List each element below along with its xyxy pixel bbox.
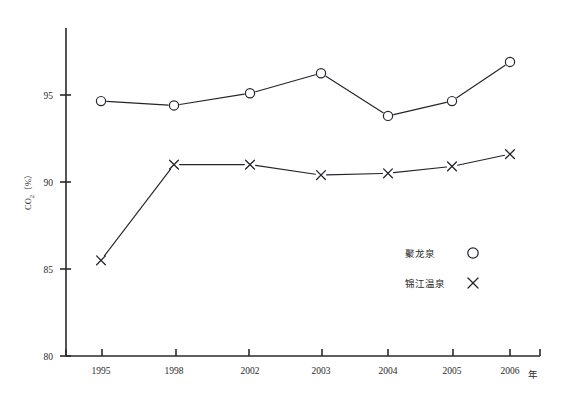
line-chart-canvas: 80859095 1995199820022003200420052006 CO… bbox=[0, 0, 565, 400]
x-axis-ticks bbox=[66, 349, 540, 356]
x-tick-label-2005: 2005 bbox=[443, 366, 462, 376]
circle-marker-icon bbox=[447, 96, 456, 105]
series-segment bbox=[327, 173, 383, 174]
series-segment bbox=[256, 75, 316, 92]
series-segment bbox=[326, 76, 383, 112]
series-segment bbox=[457, 155, 504, 165]
series-segment bbox=[394, 167, 447, 173]
series-segment bbox=[107, 101, 168, 105]
series-segment bbox=[394, 102, 447, 114]
legend-circle-marker-icon bbox=[468, 248, 478, 258]
y-axis-caption-text: CO2（%） bbox=[23, 170, 35, 210]
legend-label-0: 聚龙泉 bbox=[405, 248, 435, 259]
x-tick-label-2006: 2006 bbox=[501, 366, 520, 376]
series-segment bbox=[256, 165, 316, 174]
circle-marker-icon bbox=[96, 96, 105, 105]
x-tick-label-1995: 1995 bbox=[92, 366, 111, 376]
series-segment bbox=[180, 94, 245, 104]
circle-marker-icon bbox=[316, 69, 325, 78]
x-tick-label-2004: 2004 bbox=[379, 366, 398, 376]
series-circle bbox=[96, 57, 514, 120]
legend-label-1: 锦江温泉 bbox=[405, 278, 445, 289]
y-tick-label-95: 95 bbox=[44, 91, 54, 101]
x-axis-caption-text: 年 bbox=[528, 369, 538, 380]
series-segment bbox=[457, 65, 505, 98]
y-axis-caption: CO2（%） bbox=[23, 170, 35, 210]
y-axis-ticks: 80859095 bbox=[44, 91, 72, 362]
circle-marker-icon bbox=[169, 101, 178, 110]
x-tick-label-2002: 2002 bbox=[241, 366, 260, 376]
series-cross bbox=[97, 150, 515, 265]
data-series-layer bbox=[96, 57, 514, 264]
series-segment bbox=[104, 169, 170, 256]
x-axis-tick-labels: 1995199820022003200420052006 bbox=[92, 366, 520, 376]
chart-figure: 80859095 1995199820022003200420052006 CO… bbox=[0, 0, 565, 400]
circle-marker-icon bbox=[505, 57, 514, 66]
y-tick-label-90: 90 bbox=[44, 178, 54, 188]
circle-marker-icon bbox=[245, 89, 254, 98]
y-tick-label-85: 85 bbox=[44, 265, 54, 275]
axis-group bbox=[66, 28, 540, 356]
x-tick-label-1998: 1998 bbox=[165, 366, 184, 376]
chart-legend: 聚龙泉锦江温泉 bbox=[405, 248, 478, 289]
y-tick-label-80: 80 bbox=[44, 352, 54, 362]
circle-marker-icon bbox=[383, 111, 392, 120]
x-tick-label-2003: 2003 bbox=[312, 366, 331, 376]
